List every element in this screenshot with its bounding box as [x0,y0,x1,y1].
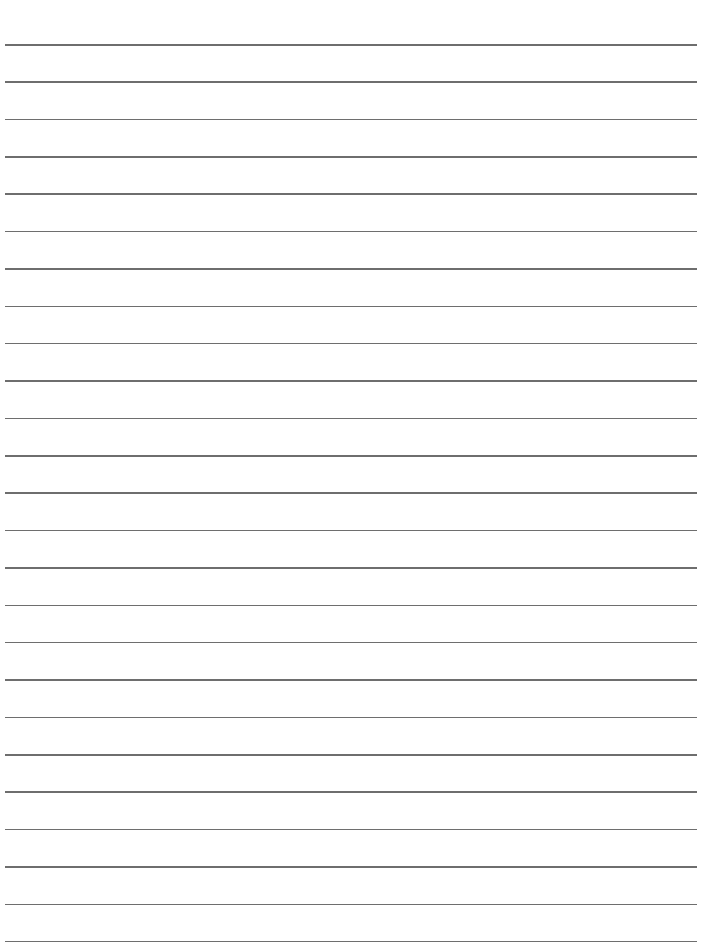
ruled-line [5,44,697,46]
ruled-line [5,492,697,494]
ruled-line [5,754,697,756]
ruled-line [5,193,697,195]
ruled-line [5,306,697,308]
ruled-line [5,829,697,831]
ruled-line [5,904,697,906]
ruled-line [5,119,697,121]
ruled-line [5,866,697,868]
ruled-line [5,268,697,270]
ruled-line [5,605,697,607]
ruled-line [5,642,697,644]
ruled-line [5,156,697,158]
lined-paper-page [0,0,702,948]
ruled-line [5,941,697,943]
ruled-line [5,567,697,569]
ruled-line [5,343,697,345]
ruled-line [5,418,697,420]
ruled-line [5,81,697,83]
ruled-line [5,679,697,681]
ruled-line [5,530,697,532]
ruled-line [5,717,697,719]
ruled-line [5,455,697,457]
ruled-line [5,791,697,793]
ruled-line [5,231,697,233]
ruled-line [5,380,697,382]
